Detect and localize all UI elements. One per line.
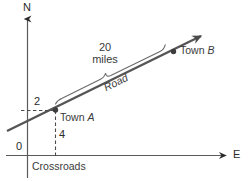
east-offset-label: 4: [59, 129, 65, 141]
north-axis-label: N: [23, 2, 31, 14]
town-a-letter: A: [87, 111, 94, 123]
distance-value: 20: [86, 42, 124, 54]
town-b-prefix: Town: [180, 44, 207, 56]
town-b-letter: B: [207, 44, 214, 56]
town-a-prefix: Town: [60, 111, 87, 123]
diagram-canvas: [0, 0, 250, 181]
town-b-marker: [171, 49, 176, 54]
road-map-diagram: N E 0 2 4 Town A Town B 20 miles Road Cr…: [0, 0, 250, 181]
north-offset-label: 2: [34, 96, 40, 108]
distance-unit: miles: [86, 54, 124, 66]
east-axis-label: E: [233, 149, 240, 161]
town-a-marker: [53, 107, 58, 112]
crossroads-label: Crossroads: [32, 161, 86, 172]
origin-label: 0: [16, 141, 22, 153]
town-a-label: Town A: [60, 112, 94, 123]
town-b-label: Town B: [180, 45, 214, 56]
distance-label: 20 miles: [86, 42, 124, 65]
